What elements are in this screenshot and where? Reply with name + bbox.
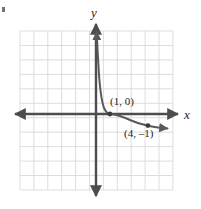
point-label-4-neg1: (4, –1): [124, 128, 153, 139]
x-axis-label: x: [184, 108, 190, 121]
y-axis-label: y: [91, 6, 97, 19]
axes: [15, 24, 178, 196]
point-label-1-0: (1, 0): [110, 96, 134, 107]
plot-canvas: [0, 0, 201, 209]
logarithmic-function-graph: y x (1, 0) (4, –1): [0, 0, 201, 209]
point-marker-1-0: [108, 112, 113, 117]
